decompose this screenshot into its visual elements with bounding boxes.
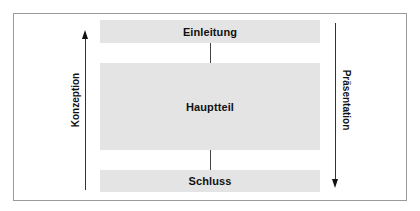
connector-main-end — [210, 150, 211, 170]
block-einleitung-label: Einleitung — [183, 26, 237, 38]
arrow-down-icon — [332, 179, 338, 188]
connector-intro-main — [210, 43, 211, 63]
block-einleitung: Einleitung — [100, 20, 320, 43]
block-hauptteil-label: Hauptteil — [186, 101, 234, 113]
konzeption-label: Konzeption — [70, 55, 82, 145]
praesentation-arrow-line — [335, 23, 336, 181]
block-schluss: Schluss — [100, 170, 320, 192]
arrow-up-icon — [82, 30, 88, 39]
konzeption-arrow-line — [85, 38, 86, 190]
block-hauptteil: Hauptteil — [100, 63, 320, 150]
praesentation-label: Präsentation — [340, 55, 352, 145]
block-schluss-label: Schluss — [189, 175, 232, 187]
